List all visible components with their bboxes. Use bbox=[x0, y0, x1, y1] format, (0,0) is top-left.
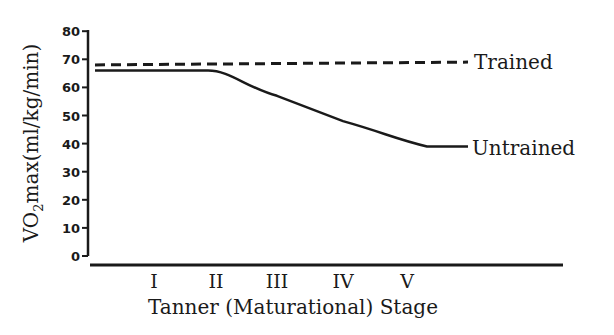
y-tick-label: 60 bbox=[62, 80, 80, 95]
y-tick-label: 50 bbox=[62, 109, 80, 124]
legend-untrained-label: Untrained bbox=[472, 136, 575, 160]
x-category-label: V bbox=[399, 270, 414, 292]
y-tick-label: 80 bbox=[62, 24, 80, 39]
y-axis-title: VO2max(ml/kg/min) bbox=[19, 44, 46, 244]
y-axis-title-subscript: 2 bbox=[31, 204, 46, 212]
y-tick-label: 30 bbox=[62, 165, 80, 180]
trained-series-line bbox=[95, 62, 468, 65]
y-ticks: 01020304050607080 bbox=[62, 24, 88, 264]
y-tick-label: 20 bbox=[62, 193, 80, 208]
legend-trained-label: Trained bbox=[474, 50, 553, 74]
x-category-label: III bbox=[266, 270, 289, 292]
y-tick-label: 10 bbox=[62, 221, 80, 236]
untrained-series-line bbox=[95, 71, 468, 147]
x-category-label: II bbox=[208, 270, 223, 292]
x-axis-title: Tanner (Maturational) Stage bbox=[148, 295, 438, 319]
y-axis-title-main: VO bbox=[19, 212, 43, 244]
chart-canvas: 01020304050607080 IIIIIIIVV Trained Untr… bbox=[0, 0, 614, 335]
y-tick-label: 0 bbox=[71, 249, 80, 264]
y-tick-label: 40 bbox=[62, 137, 80, 152]
y-axis-title-rest: max(ml/kg/min) bbox=[19, 44, 43, 204]
x-category-label: IV bbox=[332, 270, 354, 292]
y-tick-label: 70 bbox=[62, 52, 80, 67]
x-category-label: I bbox=[150, 270, 158, 292]
x-category-labels: IIIIIIIVV bbox=[150, 270, 414, 292]
